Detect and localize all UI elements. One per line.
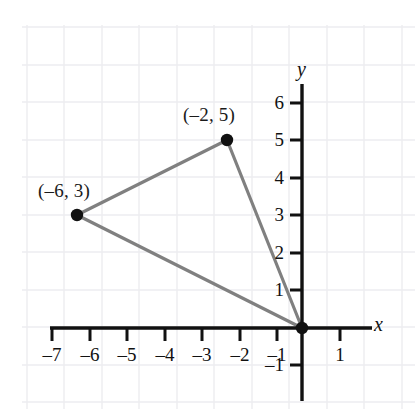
y-tick-label-4: 4 xyxy=(266,167,284,189)
y-tick-label-5: 5 xyxy=(266,129,284,151)
coordinate-plane-figure: (–2, 5) (–6, 3) y x –7 –6 –5 –4 –3 –2 –1… xyxy=(0,0,415,409)
point-label-minus6-3: (–6, 3) xyxy=(38,180,90,202)
x-tick-label-minus5: –5 xyxy=(115,344,139,366)
vertex-dot-minus2-5 xyxy=(221,134,233,146)
x-tick-label-minus2: –2 xyxy=(228,344,252,366)
vertex-dot-origin xyxy=(296,322,308,334)
x-tick-label-minus6: –6 xyxy=(78,344,102,366)
y-axis-label: y xyxy=(297,58,306,81)
y-tick-label-2: 2 xyxy=(266,242,284,264)
x-tick-label-minus7: –7 xyxy=(40,344,64,366)
point-label-minus2-5: (–2, 5) xyxy=(183,104,235,126)
y-tick-label-minus1: –1 xyxy=(256,354,284,376)
x-tick-label-minus3: –3 xyxy=(190,344,214,366)
y-tick-label-6: 6 xyxy=(266,92,284,114)
x-tick-label-minus4: –4 xyxy=(153,344,177,366)
y-tick-label-3: 3 xyxy=(266,204,284,226)
y-tick-label-1: 1 xyxy=(266,279,284,301)
x-axis-label: x xyxy=(374,313,383,336)
x-tick-label-1: 1 xyxy=(331,344,349,366)
vertex-dot-minus6-3 xyxy=(71,209,83,221)
